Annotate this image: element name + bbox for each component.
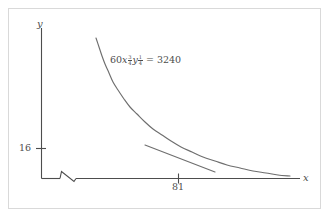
equation-y-exponent: 14	[138, 55, 142, 66]
equation-y-symbol: y	[133, 55, 138, 65]
equation-x-symbol: x	[122, 55, 127, 65]
y-axis-label: y	[37, 19, 43, 29]
equation-coefficient: 60	[110, 55, 122, 65]
equation-annotation: 60x34y14=3240	[110, 55, 181, 70]
y-tick-label-16: 16	[19, 143, 31, 153]
equation-right-hand-side: 3240	[157, 55, 181, 65]
x-tick-label-81: 81	[172, 182, 184, 192]
equation-y-exponent-denominator: 4	[138, 61, 142, 66]
x-axis-break-zigzag	[60, 172, 76, 182]
equation-x-exponent-denominator: 4	[128, 61, 132, 66]
x-axis-label: x	[303, 173, 309, 183]
plot-canvas	[0, 0, 331, 222]
equation-equals-sign: =	[146, 55, 154, 65]
equation-x-exponent: 34	[128, 55, 132, 66]
tangent-line	[145, 145, 215, 172]
figure-container: y x 16 81 60x34y14=3240	[0, 0, 331, 222]
